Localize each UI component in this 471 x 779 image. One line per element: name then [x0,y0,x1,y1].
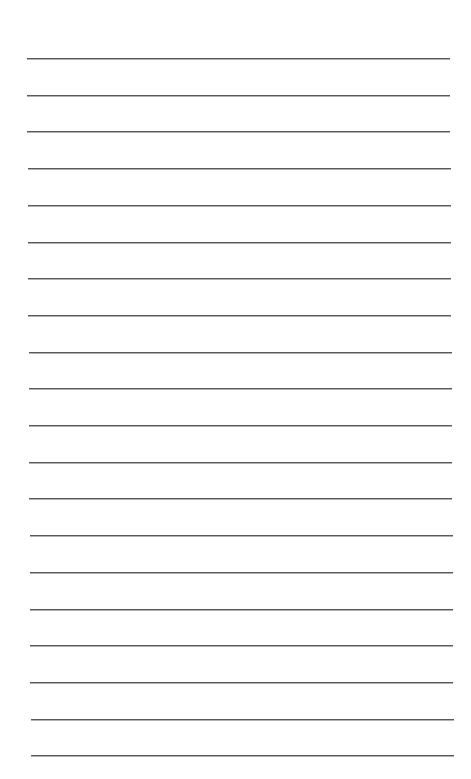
ruled-line [29,352,452,354]
ruled-line [28,205,451,207]
ruled-line [28,168,451,170]
ruled-line [29,425,452,427]
ruled-line [28,242,451,244]
ruled-line [30,682,453,684]
lined-paper-page [0,0,471,779]
ruled-line [31,719,454,721]
ruled-line [30,609,453,611]
ruled-line [27,131,450,133]
ruled-line [30,535,453,537]
ruled-line [31,755,454,757]
ruled-line [27,58,450,60]
ruled-line [28,315,451,317]
ruled-line [27,95,450,97]
ruled-line [29,462,452,464]
ruled-line [30,645,453,647]
ruled-line [29,388,452,390]
ruled-line [28,278,451,280]
ruled-line [29,498,452,500]
ruled-line [30,572,453,574]
